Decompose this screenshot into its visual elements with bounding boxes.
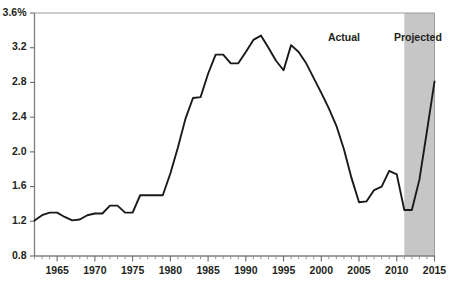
x-tick-label: 2000 [310,264,334,276]
x-tick-label: 1975 [121,264,145,276]
chart-container: 0.81.21.62.02.42.83.23.6% 19651970197519… [0,0,449,289]
series-line-rate [35,36,435,221]
x-tick-label: 2010 [385,264,409,276]
y-tick-label: 2.0 [12,145,27,157]
y-axis-tick-labels: 0.81.21.62.02.42.83.23.6% [3,6,28,261]
plot-axis-left-bottom [35,13,435,256]
x-axis-tick-labels: 1965197019751980198519901995200020052010… [45,264,446,276]
y-tick-label: 2.8 [12,75,27,87]
y-tick-label: 3.6% [3,6,28,18]
x-tick-label: 1980 [159,264,183,276]
annotation-actual-label: Actual [328,31,360,43]
x-tick-label: 1970 [83,264,107,276]
x-tick-label: 1985 [196,264,220,276]
line-chart: 0.81.21.62.02.42.83.23.6% 19651970197519… [0,0,449,289]
annotation-projected-label: Projected [394,31,442,43]
data-series-line [35,36,435,221]
y-tick-label: 1.6 [12,179,27,191]
x-tick-label: 1990 [234,264,258,276]
chart-annotations: ActualProjected [328,31,442,43]
chart-frame [35,13,435,256]
projected-region-rect [404,13,434,256]
y-tick-label: 1.2 [12,214,27,226]
plot-frame-top-right [35,13,435,256]
x-tick-label: 2015 [423,264,447,276]
y-tick-label: 0.8 [12,249,27,261]
y-tick-label: 3.2 [12,40,27,52]
x-tick-label: 1995 [272,264,296,276]
x-tick-label: 2005 [347,264,371,276]
x-tick-label: 1965 [45,264,69,276]
axis-ticks [30,13,435,262]
y-tick-label: 2.4 [12,110,27,122]
projected-shading [404,13,434,256]
